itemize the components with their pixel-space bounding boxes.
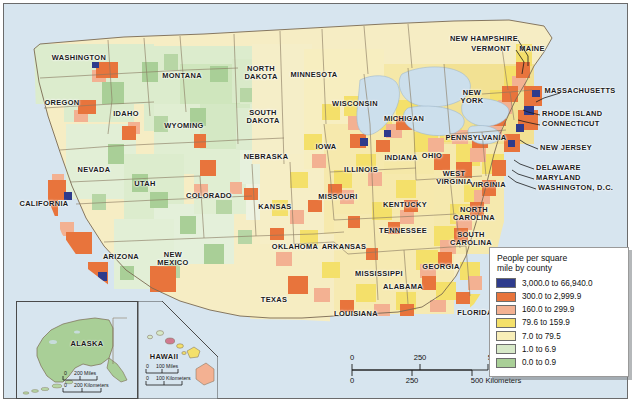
legend-swatch-1-6 (496, 344, 516, 354)
alaska-scale-mi: 200 Miles (74, 370, 96, 376)
alaska-inset: ALASKA 0 200 Miles 0 200 Kilometers (16, 301, 138, 399)
legend-label-3000-66940: 3,000.0 to 66,940.0 (522, 279, 593, 288)
legend-label-300-2999: 300.0 to 2,999.9 (522, 292, 581, 301)
legend: People per square mile by county 3,000.0… (489, 247, 629, 377)
legend-title-line1: People per square (497, 253, 567, 263)
legend-row: 0.0 to 0.9 (496, 356, 622, 369)
figure-frame: WASHINGTON OREGON IDAHO MONTANA WYOMING … (3, 3, 628, 399)
legend-swatch-3000-66940 (496, 278, 516, 288)
alaska-scale-mi-0: 0 (64, 370, 67, 376)
scale-km-250: 250 (406, 376, 419, 385)
legend-row: 3,000.0 to 66,940.0 (496, 277, 622, 290)
legend-swatch-0-09 (496, 358, 516, 368)
hawaii-scale-mi-0: 0 (146, 363, 149, 369)
legend-row: 300.0 to 2,999.9 (496, 290, 622, 303)
hawaii-inset: HAWAII 0 100 Miles 0 100 Kilometers (138, 301, 218, 399)
legend-swatch-300-2999 (496, 292, 516, 302)
legend-row: 7.0 to 79.5 (496, 330, 622, 343)
hawaii-scale-km: 100 Kilometers (156, 375, 191, 381)
legend-label-1-6: 1.0 to 6.9 (522, 345, 556, 354)
map-figure: WASHINGTON OREGON IDAHO MONTANA WYOMING … (0, 0, 633, 404)
hawaii-scale-mi: 100 Miles (156, 363, 178, 369)
legend-label-160-299: 160.0 to 299.9 (522, 305, 574, 314)
legend-label-79-159: 79.6 to 159.9 (522, 318, 570, 327)
legend-title-line2: mile by county (497, 263, 552, 273)
scale-mi-0: 0 (350, 353, 354, 362)
legend-row: 1.0 to 6.9 (496, 343, 622, 356)
scale-mi-250: 250 (414, 353, 427, 362)
legend-swatch-79-159 (496, 318, 516, 328)
legend-row: 160.0 to 299.9 (496, 303, 622, 316)
scale-km-500: 500 Kilometers (471, 376, 522, 385)
legend-row: 79.6 to 159.9 (496, 316, 622, 329)
alaska-scale-km: 200 Kilometers (74, 382, 109, 388)
scale-km-0: 0 (350, 376, 354, 385)
legend-title: People per square mile by county (497, 253, 622, 274)
legend-label-0-09: 0.0 to 0.9 (522, 358, 556, 367)
alaska-scale-km-0: 0 (64, 382, 67, 388)
legend-swatch-7-79 (496, 331, 516, 341)
hawaii-scale-km-0: 0 (146, 375, 149, 381)
legend-label-7-79: 7.0 to 79.5 (522, 332, 561, 341)
legend-swatch-160-299 (496, 305, 516, 315)
hawaii-map (138, 301, 218, 399)
